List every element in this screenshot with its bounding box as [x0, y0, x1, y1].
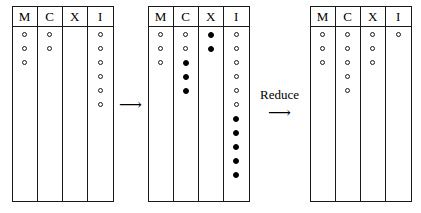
- open-circle-token: [234, 32, 239, 37]
- arrow-2-label: Reduce: [260, 87, 299, 102]
- open-circle-token: [47, 46, 52, 51]
- open-circle-token: [158, 60, 163, 65]
- column-body-m: [311, 27, 335, 201]
- open-circle-token: [22, 60, 27, 65]
- right-arrow-icon: ⟶: [119, 95, 142, 114]
- column-c: C: [174, 7, 199, 201]
- filled-circle-token: [233, 172, 239, 178]
- open-circle-token: [320, 32, 325, 37]
- column-header-m: M: [311, 7, 335, 27]
- column-m: M: [311, 7, 336, 201]
- column-header-m: M: [13, 7, 37, 27]
- open-circle-token: [98, 46, 103, 51]
- column-header-i: I: [224, 7, 249, 27]
- open-circle-token: [396, 32, 401, 37]
- column-x: X: [361, 7, 386, 201]
- filled-circle-token: [233, 116, 239, 122]
- arrow-2-reduce: Reduce ⟶: [250, 6, 310, 202]
- open-circle-token: [345, 60, 350, 65]
- column-body-c: [174, 27, 198, 201]
- open-circle-token: [345, 46, 350, 51]
- open-circle-token: [158, 46, 163, 51]
- petri-reduction-diagram: M C X I ⟶ M C X: [0, 0, 421, 213]
- column-header-x: X: [199, 7, 223, 27]
- filled-circle-token: [208, 46, 214, 52]
- column-body-i: [386, 27, 411, 201]
- column-body-x: [361, 27, 385, 201]
- open-circle-token: [22, 46, 27, 51]
- column-m: M: [13, 7, 38, 201]
- column-body-x: [63, 27, 87, 201]
- filled-circle-token: [233, 130, 239, 136]
- filled-circle-token: [208, 32, 214, 38]
- column-body-x: [199, 27, 223, 201]
- marking-table-expanded: M C X I: [148, 6, 250, 202]
- marking-table-reduced: M C X I: [310, 6, 412, 202]
- filled-circle-token: [183, 88, 189, 94]
- open-circle-token: [370, 60, 375, 65]
- column-header-c: C: [38, 7, 62, 27]
- open-circle-token: [234, 74, 239, 79]
- column-m: M: [149, 7, 174, 201]
- column-i: I: [88, 7, 113, 201]
- open-circle-token: [320, 60, 325, 65]
- open-circle-token: [370, 46, 375, 51]
- open-circle-token: [234, 102, 239, 107]
- open-circle-token: [320, 46, 325, 51]
- open-circle-token: [98, 102, 103, 107]
- column-i: I: [224, 7, 249, 201]
- column-body-m: [149, 27, 173, 201]
- column-body-c: [38, 27, 62, 201]
- open-circle-token: [370, 32, 375, 37]
- filled-circle-token: [233, 144, 239, 150]
- column-body-m: [13, 27, 37, 201]
- column-header-c: C: [336, 7, 360, 27]
- column-header-c: C: [174, 7, 198, 27]
- filled-circle-token: [183, 60, 189, 66]
- open-circle-token: [234, 60, 239, 65]
- open-circle-token: [183, 32, 188, 37]
- column-x: X: [63, 7, 88, 201]
- column-body-i: [224, 27, 249, 201]
- right-arrow-icon: ⟶: [268, 103, 291, 122]
- open-circle-token: [234, 88, 239, 93]
- marking-table-initial: M C X I: [12, 6, 114, 202]
- column-header-x: X: [63, 7, 87, 27]
- column-header-x: X: [361, 7, 385, 27]
- open-circle-token: [47, 32, 52, 37]
- open-circle-token: [22, 32, 27, 37]
- column-x: X: [199, 7, 224, 201]
- column-body-c: [336, 27, 360, 201]
- column-body-i: [88, 27, 113, 201]
- open-circle-token: [98, 88, 103, 93]
- open-circle-token: [98, 60, 103, 65]
- column-c: C: [336, 7, 361, 201]
- arrow-1: ⟶: [114, 6, 148, 202]
- column-header-i: I: [386, 7, 411, 27]
- column-i: I: [386, 7, 411, 201]
- filled-circle-token: [233, 158, 239, 164]
- column-header-m: M: [149, 7, 173, 27]
- open-circle-token: [345, 32, 350, 37]
- open-circle-token: [345, 74, 350, 79]
- column-header-i: I: [88, 7, 113, 27]
- open-circle-token: [158, 32, 163, 37]
- open-circle-token: [183, 46, 188, 51]
- open-circle-token: [98, 32, 103, 37]
- open-circle-token: [234, 46, 239, 51]
- column-c: C: [38, 7, 63, 201]
- open-circle-token: [345, 88, 350, 93]
- open-circle-token: [98, 74, 103, 79]
- filled-circle-token: [183, 74, 189, 80]
